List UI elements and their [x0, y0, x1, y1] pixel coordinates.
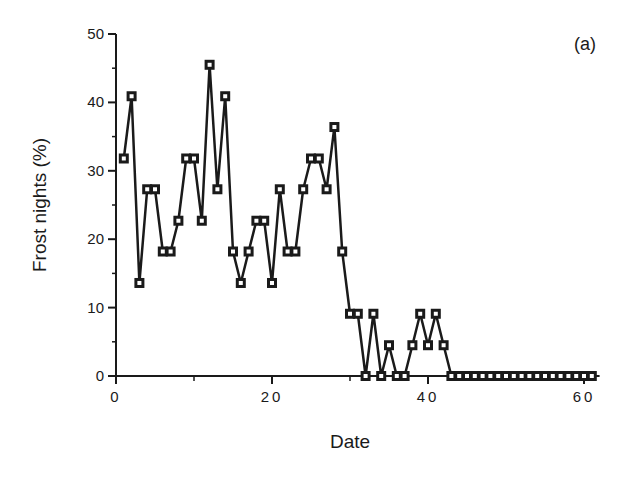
data-point-marker-center [364, 374, 368, 378]
axes: 010203040500204060 [87, 25, 599, 405]
data-point-marker-center [449, 374, 453, 378]
y-tick-label: 50 [87, 25, 104, 42]
data-point-marker-center [371, 312, 375, 316]
data-point-marker-center [504, 374, 508, 378]
data-point-marker-center [387, 343, 391, 347]
x-tick-label: 0 [110, 388, 121, 405]
data-point-marker-center [223, 94, 227, 98]
data-point-marker-center [317, 156, 321, 160]
data-point-marker-center [590, 374, 594, 378]
data-point-marker-center [286, 250, 290, 254]
data-point-marker-center [293, 250, 297, 254]
data-point-marker-center [543, 374, 547, 378]
series-line [124, 65, 592, 376]
data-point-marker-center [488, 374, 492, 378]
data-point-marker-center [184, 156, 188, 160]
data-series [119, 60, 597, 381]
y-tick-label: 30 [87, 162, 104, 179]
data-point-marker-center [527, 374, 531, 378]
data-point-marker-center [169, 250, 173, 254]
data-point-marker-center [566, 374, 570, 378]
data-point-marker-center [176, 219, 180, 223]
data-point-marker-center [200, 219, 204, 223]
data-point-marker-center [410, 343, 414, 347]
data-point-marker-center [161, 250, 165, 254]
x-tick-label: 40 [417, 388, 440, 405]
data-point-marker-center [231, 250, 235, 254]
data-point-marker-center [332, 125, 336, 129]
data-point-marker-center [247, 250, 251, 254]
data-point-marker-center [122, 156, 126, 160]
data-point-marker-center [192, 156, 196, 160]
data-point-marker-center [239, 281, 243, 285]
y-tick-label: 10 [87, 299, 104, 316]
data-point-marker-center [457, 374, 461, 378]
data-point-marker-center [512, 374, 516, 378]
data-point-marker-center [434, 312, 438, 316]
y-tick-label: 20 [87, 230, 104, 247]
data-point-marker-center [496, 374, 500, 378]
data-point-marker-center [145, 187, 149, 191]
data-point-marker-center [309, 156, 313, 160]
data-point-marker-center [465, 374, 469, 378]
y-tick-label: 40 [87, 93, 104, 110]
data-point-marker-center [270, 281, 274, 285]
data-point-marker-center [137, 281, 141, 285]
data-point-marker-center [559, 374, 563, 378]
data-point-marker-center [582, 374, 586, 378]
data-point-marker-center [481, 374, 485, 378]
data-point-marker-center [208, 63, 212, 67]
data-point-marker-center [574, 374, 578, 378]
data-point-marker-center [520, 374, 524, 378]
data-point-marker-center [551, 374, 555, 378]
data-point-marker-center [535, 374, 539, 378]
data-point-marker-center [426, 343, 430, 347]
y-axis-title: Frost nights (%) [29, 138, 50, 272]
data-point-marker-center [325, 187, 329, 191]
data-point-marker-center [254, 219, 258, 223]
data-point-marker-center [153, 187, 157, 191]
data-point-marker-center [379, 374, 383, 378]
data-point-marker-center [340, 250, 344, 254]
data-point-marker-center [348, 312, 352, 316]
x-tick-label: 20 [261, 388, 284, 405]
y-tick-label: 0 [96, 367, 104, 384]
data-point-marker-center [473, 374, 477, 378]
x-axis-title: Date [330, 431, 370, 452]
data-point-marker-center [278, 187, 282, 191]
data-point-marker-center [356, 312, 360, 316]
data-point-marker-center [215, 187, 219, 191]
data-point-marker-center [442, 343, 446, 347]
data-point-marker-center [301, 187, 305, 191]
data-point-marker-center [418, 312, 422, 316]
data-point-marker-center [395, 374, 399, 378]
data-point-marker-center [130, 94, 134, 98]
x-tick-label: 60 [573, 388, 596, 405]
panel-label: (a) [574, 34, 596, 54]
data-point-marker-center [262, 219, 266, 223]
frost-nights-chart: 010203040500204060 (a) Date Frost nights… [0, 0, 625, 480]
data-point-marker-center [403, 374, 407, 378]
